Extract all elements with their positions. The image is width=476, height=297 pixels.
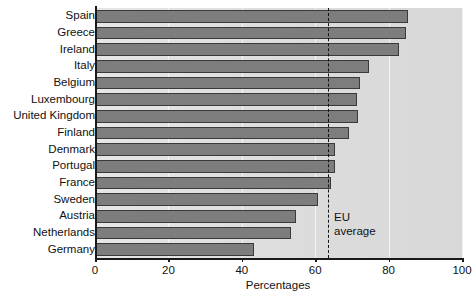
category-label-denmark: Denmark	[48, 144, 95, 156]
bar-austria	[96, 210, 296, 223]
bar-chart: SpainGreeceIrelandItalyBelgiumLuxembourg…	[0, 0, 476, 297]
bar-ireland	[96, 43, 399, 56]
x-tick-0	[95, 258, 97, 262]
x-tick-80	[389, 258, 391, 262]
x-tick-label-60: 60	[309, 264, 322, 276]
category-label-united-kingdom: United Kingdom	[13, 110, 95, 122]
bar-luxembourg	[96, 93, 357, 106]
eu-average-label-line1: EU	[334, 210, 376, 224]
eu-average-label-line2: average	[334, 224, 376, 238]
bar-sweden	[96, 193, 318, 206]
category-label-finland: Finland	[57, 127, 95, 139]
category-label-sweden: Sweden	[53, 194, 95, 206]
x-tick-100	[462, 258, 464, 262]
bar-belgium	[96, 77, 360, 90]
bar-finland	[96, 127, 349, 140]
bar-netherlands	[96, 227, 291, 240]
x-tick-20	[168, 258, 170, 262]
x-axis-title: Percentages	[246, 279, 311, 291]
category-label-ireland: Ireland	[60, 44, 95, 56]
bar-portugal	[96, 160, 335, 173]
category-label-spain: Spain	[66, 10, 95, 22]
x-tick-60	[315, 258, 317, 262]
category-label-netherlands: Netherlands	[33, 227, 95, 239]
bar-spain	[96, 10, 408, 23]
bar-denmark	[96, 143, 335, 156]
x-tick-label-40: 40	[235, 264, 248, 276]
x-tick-40	[242, 258, 244, 262]
gridline-100	[462, 8, 463, 258]
x-axis-line	[95, 258, 463, 260]
bar-greece	[96, 27, 406, 40]
bar-germany	[96, 243, 254, 256]
category-label-greece: Greece	[57, 27, 95, 39]
category-label-france: France	[59, 177, 95, 189]
eu-average-line	[328, 8, 329, 258]
bar-united-kingdom	[96, 110, 358, 123]
category-label-italy: Italy	[74, 60, 95, 72]
category-label-luxembourg: Luxembourg	[31, 94, 95, 106]
category-label-austria: Austria	[59, 210, 95, 222]
category-label-portugal: Portugal	[52, 160, 95, 172]
y-axis-line	[95, 6, 97, 260]
bar-france	[96, 177, 331, 190]
eu-average-label: EU average	[334, 210, 376, 238]
category-label-belgium: Belgium	[53, 77, 95, 89]
x-tick-label-100: 100	[452, 264, 471, 276]
x-tick-label-0: 0	[92, 264, 98, 276]
x-tick-label-80: 80	[382, 264, 395, 276]
x-tick-label-20: 20	[162, 264, 175, 276]
category-label-germany: Germany	[48, 244, 95, 256]
